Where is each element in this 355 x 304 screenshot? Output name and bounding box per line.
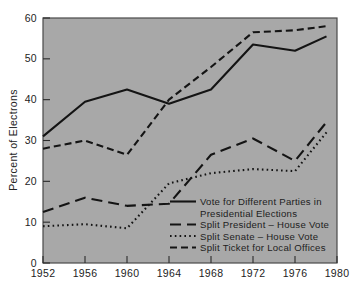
x-tick-label: 1976 bbox=[283, 267, 308, 279]
legend-label: Split President – House Vote bbox=[200, 219, 329, 230]
y-tick-label: 20 bbox=[25, 175, 37, 187]
x-tick-label: 1968 bbox=[199, 267, 224, 279]
x-tick-label: 1952 bbox=[31, 267, 56, 279]
y-tick-label: 10 bbox=[25, 216, 37, 228]
x-tick-label: 1960 bbox=[115, 267, 140, 279]
y-tick-label: 50 bbox=[25, 52, 37, 64]
y-axis-title: Percent of Electrons bbox=[7, 89, 19, 191]
legend-label: Split Ticket for Local Offices bbox=[200, 242, 326, 253]
legend-label-cont: Presidential Elections bbox=[200, 208, 297, 219]
y-tick-label: 40 bbox=[25, 93, 37, 105]
legend-label: Split Senate – House Vote bbox=[200, 231, 318, 242]
x-tick-label: 1972 bbox=[241, 267, 266, 279]
x-tick-label: 1956 bbox=[73, 267, 98, 279]
y-tick-label: 60 bbox=[25, 12, 37, 24]
line-chart: 0102030405060 19521956196019641968197219… bbox=[0, 0, 355, 304]
y-axis-tick-labels: 0102030405060 bbox=[25, 12, 37, 269]
y-tick-label: 30 bbox=[25, 134, 37, 146]
x-tick-label: 1964 bbox=[157, 267, 182, 279]
legend-label: Vote for Different Parties in bbox=[200, 196, 322, 207]
x-axis-tick-labels: 19521956196019641968197219761980 bbox=[31, 267, 350, 279]
chart-figure: 0102030405060 19521956196019641968197219… bbox=[0, 0, 355, 304]
x-tick-label: 1980 bbox=[325, 267, 350, 279]
